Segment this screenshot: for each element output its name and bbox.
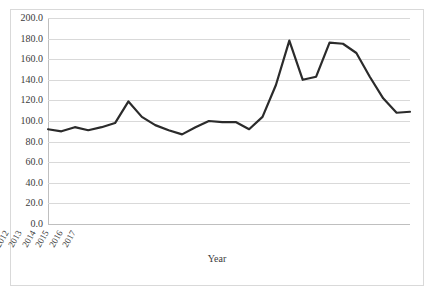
y-axis-tick-label: 120.0	[21, 95, 44, 105]
y-axis-tick-label: 180.0	[21, 34, 44, 44]
y-axis-tick-label: 200.0	[21, 13, 44, 23]
y-axis-tick-label: 140.0	[21, 75, 44, 85]
plot-area: 200.0180.0160.0140.0120.0100.080.060.040…	[48, 18, 410, 224]
y-axis-tick-label: 80.0	[26, 137, 44, 147]
x-axis-title: Year	[11, 253, 423, 264]
gridline	[48, 224, 410, 225]
y-axis-tick-label: 60.0	[26, 157, 44, 167]
y-axis-tick-label: 0.0	[31, 219, 44, 229]
y-axis-tick-label: 100.0	[21, 116, 44, 126]
y-axis-tick-label: 40.0	[26, 178, 44, 188]
y-axis-tick-label: 160.0	[21, 54, 44, 64]
data-series-line	[48, 18, 410, 224]
y-axis-tick-label: 20.0	[26, 198, 44, 208]
chart-container: 200.0180.0160.0140.0120.0100.080.060.040…	[10, 9, 424, 286]
